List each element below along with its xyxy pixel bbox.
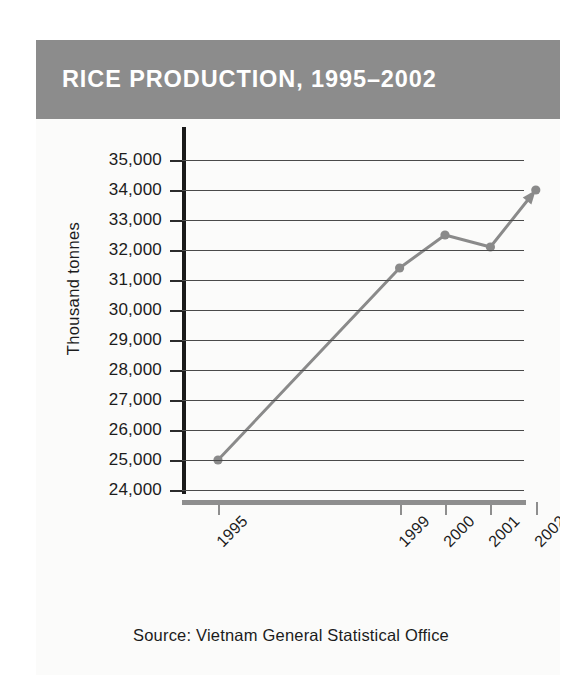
gridline — [182, 280, 524, 281]
y-axis-tick-labels: 35,00034,00033,00032,00031,00030,00029,0… — [52, 119, 162, 675]
gridline — [182, 250, 524, 251]
series-line — [218, 197, 530, 460]
gridline — [182, 490, 524, 491]
data-point-marker: 2002: 34000 — [531, 185, 540, 194]
y-axis-tick — [170, 430, 182, 432]
x-axis-tick — [218, 502, 220, 515]
gridline — [182, 220, 524, 221]
x-axis-tick — [536, 502, 538, 515]
plot-area: Thousand tonnes 35,00034,00033,00032,000… — [36, 119, 560, 675]
y-axis-tick — [170, 280, 182, 282]
y-axis-tick — [170, 160, 182, 162]
gridline — [182, 460, 524, 461]
y-axis-tick-label: 24,000 — [67, 481, 162, 498]
y-axis-tick-label: 32,000 — [67, 241, 162, 258]
y-axis-tick — [170, 190, 182, 192]
y-axis-tick — [170, 400, 182, 402]
y-axis-tick-label: 35,000 — [67, 151, 162, 168]
gridline — [182, 430, 524, 431]
x-axis-tick — [400, 502, 402, 515]
y-axis-tick-label: 28,000 — [67, 361, 162, 378]
y-axis-tick — [170, 490, 182, 492]
data-point-marker: 2000: 32500 — [440, 230, 449, 239]
y-axis-tick-label: 34,000 — [67, 181, 162, 198]
gridline — [182, 160, 524, 161]
y-axis-tick-label: 26,000 — [67, 421, 162, 438]
y-axis-tick — [170, 250, 182, 252]
y-axis-tick-label: 25,000 — [67, 451, 162, 468]
x-axis-line — [182, 500, 526, 505]
gridline — [182, 400, 524, 401]
y-axis-tick — [170, 340, 182, 342]
gridline — [182, 340, 524, 341]
y-axis-tick-label: 31,000 — [67, 271, 162, 288]
data-series-layer: 1995: 250001999: 314002000: 325002001: 3… — [182, 119, 560, 675]
gridline — [182, 190, 524, 191]
chart-title-banner: RICE PRODUCTION, 1995–2002 — [36, 40, 560, 119]
gridline — [182, 310, 524, 311]
source-caption: Source: Vietnam General Statistical Offi… — [36, 626, 560, 645]
y-axis-tick — [170, 310, 182, 312]
y-axis-tick — [170, 460, 182, 462]
y-axis-tick — [170, 220, 182, 222]
y-axis-tick-label: 33,000 — [67, 211, 162, 228]
chart-title: RICE PRODUCTION, 1995–2002 — [36, 66, 437, 93]
chart-figure: RICE PRODUCTION, 1995–2002 Thousand tonn… — [0, 0, 587, 699]
y-axis-tick-label: 27,000 — [67, 391, 162, 408]
data-point-marker: 1999: 31400 — [395, 263, 404, 272]
y-axis-tick-label: 30,000 — [67, 301, 162, 318]
y-axis-tick — [170, 370, 182, 372]
plot-box: 1995: 250001999: 314002000: 325002001: 3… — [182, 119, 560, 675]
x-axis-tick — [445, 502, 447, 515]
y-axis-tick-label: 29,000 — [67, 331, 162, 348]
gridline — [182, 370, 524, 371]
x-axis-tick — [490, 502, 492, 515]
